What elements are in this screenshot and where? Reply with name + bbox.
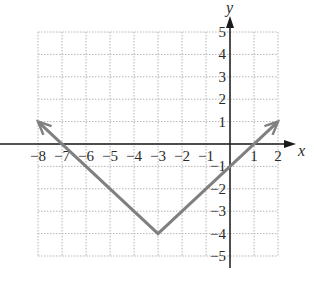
y-tick-label: 3 [219, 69, 227, 85]
y-tick-label: −3 [210, 203, 226, 219]
x-axis-label: x [297, 142, 305, 159]
y-tick-label: −4 [210, 226, 226, 242]
x-tick-label: −5 [102, 148, 118, 164]
y-tick-label: −5 [210, 248, 226, 264]
axes [0, 16, 296, 268]
x-tick-label: −8 [30, 148, 46, 164]
x-tick-label: −3 [150, 148, 166, 164]
x-tick-label: −4 [126, 148, 142, 164]
y-tick-label: 5 [219, 24, 227, 40]
y-axis-arrow-icon [226, 16, 234, 28]
x-tick-label: 1 [250, 148, 258, 164]
y-tick-label: 2 [219, 91, 227, 107]
y-tick-label: 1 [219, 114, 227, 130]
y-tick-label: 4 [219, 46, 227, 62]
x-tick-label: 2 [274, 148, 282, 164]
absolute-value-graph: −8−7−6−5−4−3−2−112 54321−1−2−3−4−5 x y [0, 0, 314, 281]
y-axis-label: y [224, 0, 234, 17]
x-tick-label: −2 [174, 148, 190, 164]
x-axis-arrow-icon [284, 140, 296, 148]
